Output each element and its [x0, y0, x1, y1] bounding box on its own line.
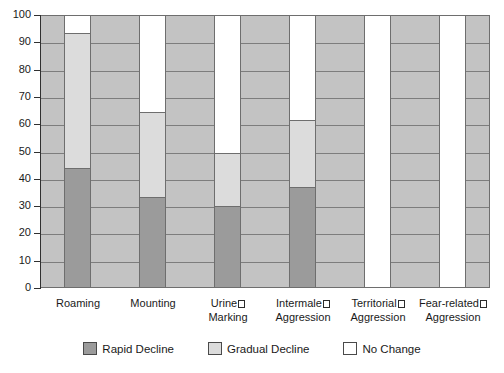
y-axis-label-50: 50 [1, 146, 31, 157]
segment-rapid-decline[interactable] [289, 187, 316, 288]
y-axis-label-100: 100 [1, 9, 31, 20]
gridline-70 [41, 98, 489, 99]
stacked-bar-chart: 1009080706050403020100 RoamingMountingUr… [0, 0, 504, 373]
bar-urine-marking[interactable] [214, 15, 241, 288]
legend-swatch-gradual [208, 342, 222, 355]
y-tick-100 [34, 15, 41, 16]
bar-fear-related-aggression[interactable] [439, 15, 466, 288]
y-tick-40 [34, 179, 41, 180]
gridline-20 [41, 234, 489, 235]
segment-rapid-decline[interactable] [214, 206, 241, 288]
gridline-80 [41, 71, 489, 72]
x-axis-label-fear-related-aggression: Fear-relatedAggression [405, 296, 501, 324]
segment-gradual-decline[interactable] [139, 112, 166, 197]
bar-intermale-aggression[interactable] [289, 15, 316, 288]
linebreak-box-glyph-icon [480, 300, 487, 308]
y-axis-label-40: 40 [1, 173, 31, 184]
y-axis-label-90: 90 [1, 36, 31, 47]
y-axis-label-70: 70 [1, 91, 31, 102]
legend-label: Gradual Decline [227, 343, 309, 355]
legend-swatch-none [343, 342, 357, 355]
y-axis-label-wrap: 70 [0, 91, 31, 102]
segment-no-change[interactable] [439, 15, 466, 288]
chart-legend: Rapid DeclineGradual DeclineNo Change [0, 342, 504, 355]
segment-rapid-decline[interactable] [139, 197, 166, 288]
y-axis-label-wrap: 0 [0, 282, 31, 293]
y-axis-label-wrap: 30 [0, 200, 31, 211]
segment-gradual-decline[interactable] [64, 33, 91, 168]
y-axis-label-wrap: 50 [0, 146, 31, 157]
gridline-40 [41, 180, 489, 181]
gridline-30 [41, 207, 489, 208]
y-tick-60 [34, 124, 41, 125]
y-axis-label-0: 0 [1, 282, 31, 293]
gridline-10 [41, 262, 489, 263]
segment-no-change[interactable] [64, 15, 91, 33]
y-tick-80 [34, 70, 41, 71]
segment-no-change[interactable] [214, 15, 241, 153]
y-axis-label-wrap: 100 [0, 9, 31, 20]
y-tick-0 [34, 288, 41, 289]
gridline-90 [41, 43, 489, 44]
legend-item-none[interactable]: No Change [343, 342, 420, 355]
y-axis-label-80: 80 [1, 64, 31, 75]
y-axis-label-wrap: 40 [0, 173, 31, 184]
legend-swatch-rapid [83, 342, 97, 355]
linebreak-box-glyph-icon [398, 300, 405, 308]
bar-mounting[interactable] [139, 15, 166, 288]
gridline-50 [41, 153, 489, 154]
legend-item-rapid[interactable]: Rapid Decline [83, 342, 174, 355]
y-axis-label-wrap: 90 [0, 36, 31, 47]
y-axis-label-30: 30 [1, 200, 31, 211]
segment-gradual-decline[interactable] [214, 153, 241, 206]
x-axis-label-line-2: Aggression [405, 310, 501, 324]
y-tick-30 [34, 206, 41, 207]
legend-label: No Change [362, 343, 420, 355]
legend-item-gradual[interactable]: Gradual Decline [208, 342, 309, 355]
y-tick-10 [34, 261, 41, 262]
y-axis-label-wrap: 10 [0, 255, 31, 266]
segment-no-change[interactable] [289, 15, 316, 120]
gridline-60 [41, 125, 489, 126]
bar-territorial-aggression[interactable] [364, 15, 391, 288]
x-axis-label-line-1: Fear-related [405, 296, 501, 310]
bar-roaming[interactable] [64, 15, 91, 288]
legend-label: Rapid Decline [102, 343, 174, 355]
y-axis-label-wrap: 20 [0, 227, 31, 238]
y-axis-label-20: 20 [1, 227, 31, 238]
y-tick-20 [34, 233, 41, 234]
linebreak-box-glyph-icon [323, 300, 330, 308]
y-tick-90 [34, 42, 41, 43]
segment-rapid-decline[interactable] [64, 168, 91, 288]
y-axis-label-10: 10 [1, 255, 31, 266]
segment-no-change[interactable] [364, 15, 391, 288]
plot-area [40, 15, 490, 288]
y-axis-label-wrap: 80 [0, 64, 31, 75]
segment-no-change[interactable] [139, 15, 166, 112]
segment-gradual-decline[interactable] [289, 120, 316, 187]
y-axis-label-wrap: 60 [0, 118, 31, 129]
y-axis-label-60: 60 [1, 118, 31, 129]
linebreak-box-glyph-icon [238, 300, 245, 308]
y-tick-50 [34, 152, 41, 153]
y-tick-70 [34, 97, 41, 98]
